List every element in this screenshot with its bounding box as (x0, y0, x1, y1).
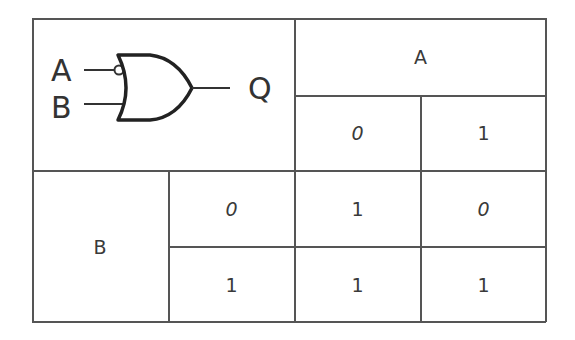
row-value-1: 1 (169, 247, 294, 322)
gate-output-label: Q (248, 71, 272, 106)
output-b0-a1: 0 (421, 171, 546, 246)
gate-input-b-label: B (51, 90, 72, 125)
column-value-0: 0 (295, 96, 420, 170)
truth-table: A B Q A 0 1 B 0 1 1 0 1 1 (32, 18, 546, 322)
row-value-0: 0 (169, 171, 294, 246)
output-b0-a0: 1 (295, 171, 420, 246)
or-gate-body-icon (118, 55, 192, 120)
row-header-b: B (32, 171, 168, 322)
output-b1-a0: 1 (295, 247, 420, 322)
column-value-1: 1 (421, 96, 546, 170)
gate-input-a-label: A (51, 53, 72, 88)
or-gate-symbol: A B Q (32, 18, 294, 170)
column-header-a: A (295, 18, 546, 95)
output-b1-a1: 1 (421, 247, 546, 322)
